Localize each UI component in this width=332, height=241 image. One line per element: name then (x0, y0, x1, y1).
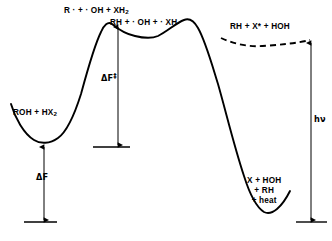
energy-diagram-figure: R · + · OH + XH2 RH + · OH + · XH RH + X… (0, 0, 332, 241)
label-product-line-2: + RH (247, 186, 281, 196)
energy-curve-canvas (0, 0, 332, 241)
label-product-line-1: X + HOH (247, 176, 281, 186)
label-photon-energy: hν (314, 114, 326, 124)
label-product-line-3: + heat (247, 196, 281, 206)
label-products: X + HOH + RH + heat (247, 176, 281, 206)
label-delta-f-activation-symbol: ΔF (101, 73, 113, 83)
label-reactant-well-text: ROH + HX (13, 108, 54, 117)
label-reactant-well-subscript: 2 (54, 110, 58, 117)
label-reactant-top: R · + · OH + XH2 (64, 6, 129, 16)
label-delta-f-activation: ΔF‡ (101, 72, 117, 83)
label-intermediate: RH + · OH + · XH (110, 18, 177, 28)
label-excited-state: RH + X* + HOH (230, 22, 290, 32)
label-reactant-well: ROH + HX2 (13, 108, 57, 118)
label-delta-f-activation-superscript: ‡ (113, 72, 117, 80)
label-delta-f: ΔF (36, 172, 48, 182)
excited-state-energy-curve (221, 38, 310, 46)
label-reactant-top-subscript: 2 (125, 8, 129, 15)
label-reactant-top-text: R · + · OH + XH (64, 6, 125, 15)
